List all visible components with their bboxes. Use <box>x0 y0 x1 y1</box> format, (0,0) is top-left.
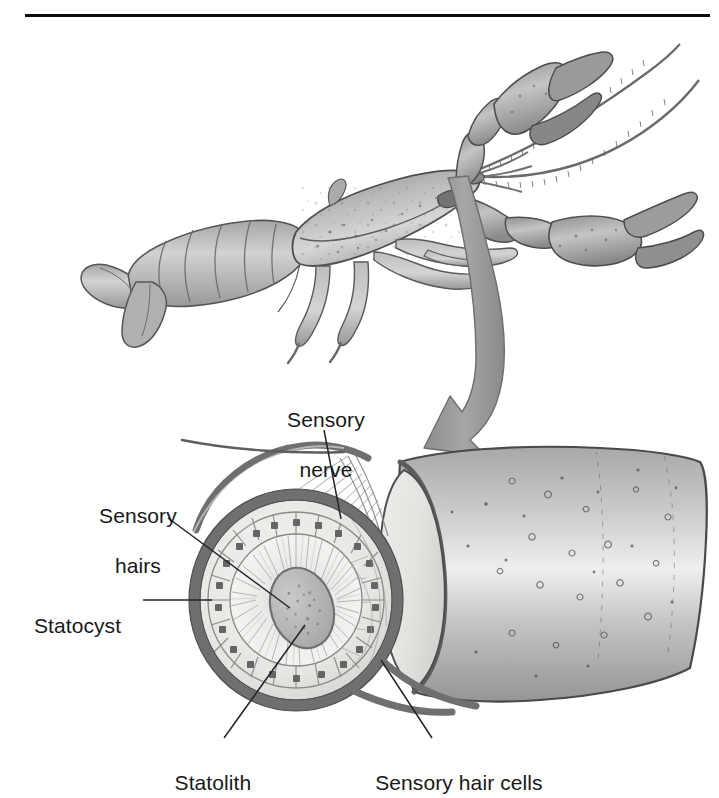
label-statolith-text: Statolith <box>175 771 252 794</box>
statocyst-capsule <box>189 489 403 711</box>
label-sensory-hair-cells-text: Sensory hair cells <box>375 771 543 794</box>
label-sensory-nerve-line2: nerve <box>299 458 352 481</box>
label-statocyst-text: Statocyst <box>34 614 121 637</box>
label-sensory-hairs-line1: Sensory <box>99 504 177 527</box>
abdomen-icon <box>81 220 302 347</box>
leg-tips-icon <box>288 343 341 363</box>
label-sensory-hair-cells: Sensory hair cells <box>362 745 544 795</box>
label-sensory-nerve-line1: Sensory <box>287 408 365 431</box>
label-sensory-hairs-line2: hairs <box>115 554 161 577</box>
label-statolith: Statolith <box>142 745 272 795</box>
label-sensory-nerve: Sensory nerve <box>252 382 388 482</box>
cheliped-near-icon <box>456 52 613 190</box>
label-statocyst: Statocyst <box>22 588 121 638</box>
crayfish-illustration <box>81 44 704 363</box>
label-sensory-hairs: Sensory hairs <box>62 478 202 578</box>
